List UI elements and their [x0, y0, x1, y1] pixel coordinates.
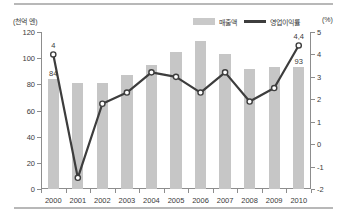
- right-axis-tick-label: -1: [317, 162, 324, 171]
- right-axis-tick: [311, 122, 315, 123]
- chart-legend: 매출액 영업이익률: [193, 15, 300, 28]
- right-axis-unit-label: (%): [322, 16, 333, 23]
- x-axis-label: 2000: [45, 196, 62, 205]
- line-value-label: 4,4: [294, 32, 304, 41]
- x-axis-tick: [262, 189, 263, 193]
- x-axis-tick: [66, 189, 67, 193]
- x-axis-label: 2004: [143, 196, 160, 205]
- x-axis-tick: [286, 189, 287, 193]
- line-marker: [100, 101, 105, 106]
- line-marker: [173, 74, 178, 79]
- line-marker: [198, 90, 203, 95]
- line-marker: [296, 43, 301, 48]
- line-marker: [75, 175, 80, 180]
- x-axis-tick: [188, 189, 189, 193]
- x-axis-label: 2006: [192, 196, 209, 205]
- line-marker: [124, 90, 129, 95]
- right-axis-tick: [311, 167, 315, 168]
- left-axis-tick-label: 80: [27, 80, 35, 89]
- left-axis-tick-label: 0: [31, 185, 35, 194]
- right-axis-tick-label: 5: [317, 28, 321, 37]
- right-axis-tick-label: 1: [317, 117, 321, 126]
- right-axis-tick: [311, 54, 315, 55]
- right-axis-tick: [311, 77, 315, 78]
- right-axis-tick: [311, 99, 315, 100]
- right-axis-tick-label: -2: [317, 185, 324, 194]
- legend-label-sales: 매출액: [219, 17, 237, 27]
- x-axis-label: 2005: [168, 196, 185, 205]
- legend-label-margin: 영업이익률: [270, 17, 300, 27]
- bar-value-label: 93: [295, 57, 303, 66]
- line-marker: [247, 99, 252, 104]
- x-axis-tick: [164, 189, 165, 193]
- right-axis-tick-label: 3: [317, 72, 321, 81]
- left-axis-tick-label: 120: [22, 28, 35, 37]
- line-marker: [51, 52, 56, 57]
- x-axis-label: 2009: [266, 196, 283, 205]
- x-axis-tick: [213, 189, 214, 193]
- top-divider: [14, 3, 333, 5]
- line-marker: [222, 70, 227, 75]
- legend-entry-margin: 영업이익률: [244, 17, 300, 27]
- line-marker: [272, 85, 277, 90]
- line-series: [41, 32, 311, 189]
- x-axis-label: 2010: [290, 196, 307, 205]
- left-axis-tick-label: 100: [22, 54, 35, 63]
- x-axis-label: 2002: [94, 196, 111, 205]
- line-path: [53, 45, 298, 177]
- bar-value-label: 84: [49, 69, 57, 78]
- x-axis-tick: [139, 189, 140, 193]
- x-axis-label: 2001: [69, 196, 86, 205]
- left-axis-tick-label: 20: [27, 158, 35, 167]
- right-axis-tick-label: 4: [317, 50, 321, 59]
- bottom-divider: [14, 207, 333, 209]
- x-axis-tick: [90, 189, 91, 193]
- x-axis-tick: [115, 189, 116, 193]
- right-axis-tick: [311, 144, 315, 145]
- x-axis-label: 2008: [241, 196, 258, 205]
- left-axis-tick-label: 60: [27, 106, 35, 115]
- right-axis-tick-label: 0: [317, 140, 321, 149]
- x-axis-label: 2007: [217, 196, 234, 205]
- legend-entry-sales: 매출액: [193, 17, 237, 27]
- chart-figure: (천억 엔) (%) 매출액 영업이익률 020406080100120 -2-…: [0, 0, 347, 214]
- line-marker: [149, 70, 154, 75]
- legend-line-swatch-icon: [244, 20, 266, 23]
- left-axis-tick-label: 40: [27, 132, 35, 141]
- left-axis-unit-label: (천억 엔): [13, 16, 38, 26]
- x-axis-tick: [237, 189, 238, 193]
- legend-bar-swatch-icon: [193, 18, 215, 25]
- right-axis-tick-label: 2: [317, 95, 321, 104]
- right-axis-tick: [311, 32, 315, 33]
- line-value-label: 4: [51, 41, 55, 50]
- x-axis-tick: [311, 189, 312, 193]
- x-axis-label: 2003: [119, 196, 136, 205]
- x-axis-tick: [41, 189, 42, 193]
- plot-area: 020406080100120 -2-1012345 2000200120022…: [41, 32, 311, 189]
